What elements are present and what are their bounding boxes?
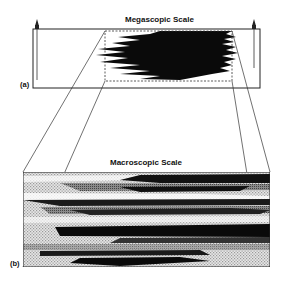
megascopic-title: Megascopic Scale — [125, 15, 194, 24]
macroscopic-box — [23, 172, 270, 267]
panel-b-label: (b) — [10, 259, 20, 268]
panel-a-label: (a) — [20, 80, 29, 89]
macroscopic-title: Macroscopic Scale — [110, 158, 182, 167]
diagram-canvas — [0, 0, 284, 282]
megascopic-box — [33, 19, 260, 88]
